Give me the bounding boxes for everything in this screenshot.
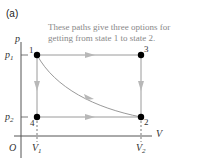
- origin-label: O: [9, 143, 16, 153]
- v2-label: V2: [136, 143, 146, 155]
- state-4-label: 4: [30, 119, 35, 128]
- v1-label: V1: [32, 143, 42, 155]
- arrow-right-icon: [85, 52, 95, 58]
- p2-label: p2: [5, 112, 14, 124]
- state-2-label: 2: [144, 118, 149, 127]
- arrow-right-icon: [85, 114, 95, 120]
- y-axis-label: p: [15, 34, 20, 44]
- state-1-label: 1: [29, 46, 34, 55]
- arrow-down-icon: [34, 81, 40, 91]
- p1-label: p1: [5, 50, 14, 62]
- x-axis-label: V: [156, 129, 162, 139]
- state-3-label: 3: [144, 45, 149, 54]
- state-1-point: [34, 52, 40, 58]
- pv-diagram: [0, 0, 203, 164]
- arrow-down-icon: [138, 81, 144, 91]
- path-1-2-curve: [37, 55, 141, 117]
